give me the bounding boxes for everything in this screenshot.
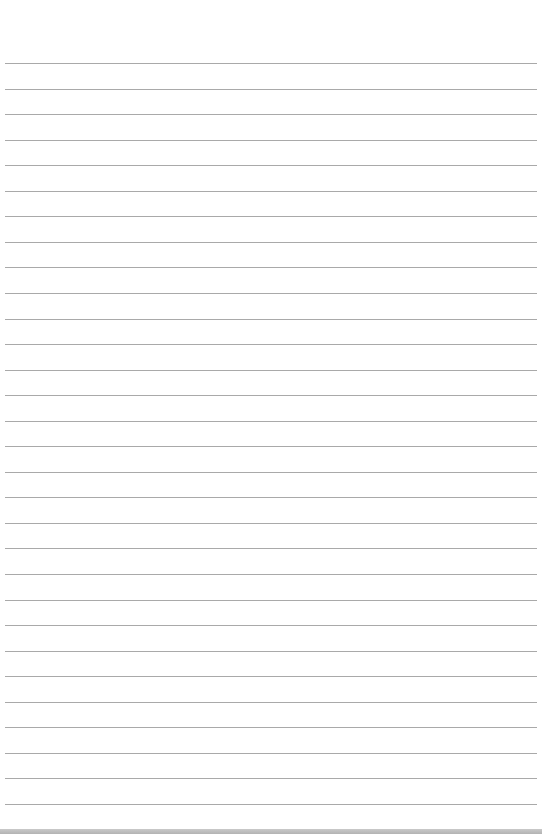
ruled-line	[5, 63, 537, 64]
ruled-line	[5, 421, 537, 422]
ruled-line	[5, 472, 537, 473]
ruled-line	[5, 446, 537, 447]
ruled-line	[5, 651, 537, 652]
ruled-line	[5, 548, 537, 549]
ruled-line	[5, 523, 537, 524]
ruled-line	[5, 191, 537, 192]
ruled-line	[5, 395, 537, 396]
ruled-line	[5, 574, 537, 575]
ruled-line	[5, 293, 537, 294]
ruled-line	[5, 804, 537, 805]
ruled-line	[5, 89, 537, 90]
ruled-line	[5, 140, 537, 141]
ruled-line	[5, 600, 537, 601]
ruled-line	[5, 370, 537, 371]
ruled-line	[5, 216, 537, 217]
ruled-line	[5, 114, 537, 115]
ruled-line	[5, 497, 537, 498]
ruled-line	[5, 778, 537, 779]
lined-paper-sheet	[0, 0, 542, 834]
ruled-line	[5, 702, 537, 703]
ruled-line	[5, 165, 537, 166]
ruled-line	[5, 676, 537, 677]
ruled-line	[5, 727, 537, 728]
ruled-line	[5, 753, 537, 754]
paper-bottom-edge	[0, 829, 542, 834]
ruled-line	[5, 344, 537, 345]
ruled-line	[5, 267, 537, 268]
ruled-line	[5, 625, 537, 626]
ruled-line	[5, 319, 537, 320]
ruled-line	[5, 242, 537, 243]
